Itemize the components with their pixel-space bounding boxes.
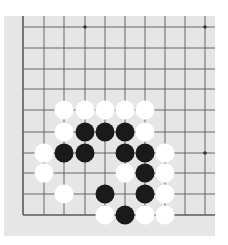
- white-stone[interactable]: [116, 164, 135, 183]
- stones-layer: [35, 101, 175, 225]
- white-stone[interactable]: [96, 101, 115, 120]
- white-stone[interactable]: [55, 185, 74, 204]
- white-stone[interactable]: [156, 144, 175, 163]
- star-point: [83, 25, 87, 29]
- black-stone[interactable]: [76, 123, 95, 142]
- black-stone[interactable]: [136, 164, 155, 183]
- white-stone[interactable]: [136, 206, 155, 225]
- black-stone[interactable]: [55, 144, 74, 163]
- white-stone[interactable]: [55, 123, 74, 142]
- black-stone[interactable]: [76, 144, 95, 163]
- white-stone[interactable]: [156, 164, 175, 183]
- black-stone[interactable]: [116, 144, 135, 163]
- star-point: [203, 151, 207, 155]
- white-stone[interactable]: [136, 101, 155, 120]
- white-stone[interactable]: [156, 206, 175, 225]
- black-stone[interactable]: [96, 185, 115, 204]
- white-stone[interactable]: [116, 101, 135, 120]
- star-point: [203, 25, 207, 29]
- black-stone[interactable]: [116, 123, 135, 142]
- white-stone[interactable]: [35, 164, 54, 183]
- white-stone[interactable]: [55, 101, 74, 120]
- black-stone[interactable]: [136, 144, 155, 163]
- black-stone[interactable]: [96, 123, 115, 142]
- white-stone[interactable]: [76, 101, 95, 120]
- white-stone[interactable]: [35, 144, 54, 163]
- white-stone[interactable]: [156, 185, 175, 204]
- white-stone[interactable]: [136, 123, 155, 142]
- go-board[interactable]: [0, 0, 228, 245]
- black-stone[interactable]: [136, 185, 155, 204]
- white-stone[interactable]: [96, 206, 115, 225]
- black-stone[interactable]: [116, 206, 135, 225]
